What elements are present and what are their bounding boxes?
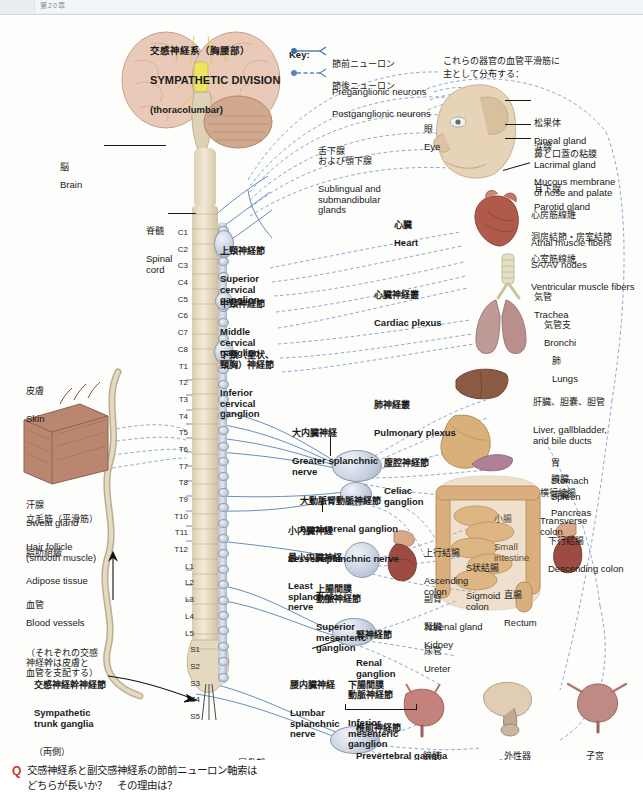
spinal-cord-label-en: Spinal cord	[146, 254, 172, 275]
inferior-cervical-ganglion-en: Inferior cervical ganglion	[220, 388, 274, 420]
pulmonary-plexus-label: 肺神経叢 Pulmonary plexus	[374, 382, 456, 456]
spinal-segment-s5: S5	[178, 712, 200, 721]
spinal-segment-t10: T10	[166, 512, 188, 521]
rectum-jp: 直腸	[504, 590, 537, 600]
vertebral-striations	[192, 206, 218, 666]
mucous-membrane-leader	[505, 138, 531, 139]
eye-en: Eye	[424, 141, 440, 152]
descending-colon-en: Descending colon	[548, 564, 624, 575]
cardiac-plexus-label: 心臓神経叢 Cardiac plexus	[374, 272, 442, 346]
sigmoid-colon-jp: S状結腸	[466, 563, 500, 573]
spinal-segment-t4: T4	[166, 412, 188, 421]
legend-item-postganglionic-jp: 節後ニューロン	[332, 81, 431, 91]
trunk-ganglion-bead	[218, 565, 229, 574]
cardiac-plexus-jp: 心臓神経叢	[374, 290, 442, 300]
bronchi-jp: 気管支	[544, 320, 571, 330]
spinal-segment-l2: L2	[172, 578, 194, 587]
ascending-colon-jp: 上行結腸	[424, 548, 468, 558]
aorticorenal-ganglion-label: 大動脈腎動脈神経節 Aorticorenal ganglion	[300, 478, 398, 552]
spinal-segment-l4: L4	[172, 612, 194, 621]
spinal-cord-label-jp: 脊髄	[146, 226, 172, 236]
ventricular-fibers-jp: 心室筋線維	[531, 254, 634, 264]
spinal-segment-c5: C5	[166, 295, 188, 304]
celiac-ganglion-jp: 腹腔神経節	[384, 458, 429, 468]
pulmonary-plexus-jp: 肺神経叢	[374, 400, 456, 410]
spinal-segment-s2: S2	[178, 662, 200, 671]
trunk-ganglion-bead	[218, 673, 229, 682]
trunk-ganglion-bead	[218, 519, 229, 528]
skin-title-en: Skin	[26, 414, 44, 425]
pineal-leader	[505, 100, 531, 101]
spinal-segment-t5: T5	[166, 428, 188, 437]
lumbar-splanchnic-nerve-jp: 腰内臓神経	[290, 680, 340, 690]
spinal-segment-t1: T1	[166, 362, 188, 371]
trunk-ganglion-bead	[218, 596, 229, 605]
cardiac-plexus-en: Cardiac plexus	[374, 318, 442, 329]
superior-mesenteric-ganglion-jp: 上腸間膜 動脈神経節	[316, 584, 366, 604]
spinal-segment-t12: T12	[166, 545, 188, 554]
spinal-segment-t6: T6	[166, 445, 188, 454]
spinal-segment-s1: S1	[178, 645, 200, 654]
lumbar-splanchnic-nerve-en: Lumbar splanchnic nerve	[290, 708, 340, 740]
trunk-ganglion-bead	[218, 611, 229, 620]
brainstem-segment	[194, 148, 216, 208]
blood-vessels-label: 血管 Blood vessels （それぞれの交感 神経幹は皮膚と 血管を支配す…	[26, 558, 98, 696]
spinal-segment-t2: T2	[166, 378, 188, 387]
heart-illustration	[470, 188, 526, 250]
organ-label-eye: 眼 Eye	[424, 100, 440, 154]
inferior-cervical-ganglion-jp: 下頸（星状、 頸胸）神経節	[220, 350, 274, 370]
skin-upward-arrow	[109, 552, 116, 600]
aorticorenal-ganglion-jp: 大動脈腎動脈神経節	[300, 496, 398, 506]
prevertebral-ganglia-jp: 椎前神経節	[356, 723, 447, 733]
skin-title-label: 皮膚 Skin	[26, 368, 44, 442]
brain-label-en: Brain	[60, 179, 82, 190]
legend-swatch-postganglionic	[290, 68, 334, 78]
sympathetic-trunk-ganglia-en: Sympathetic trunk ganglia	[34, 708, 106, 729]
organ-label-rectum: 直腸 Rectum	[504, 572, 537, 646]
lungs-jp: 肺	[552, 356, 561, 366]
renal-ganglion-jp: 腎神経節	[356, 630, 396, 640]
question-footer: Q 交感神経系と副交感神経系の節前ニューロン軸索は どちらが長いか？ その理由は…	[0, 760, 643, 812]
ureter-en: Ureter	[424, 663, 450, 674]
middle-cervical-ganglion-jp: 中頸神経節	[220, 299, 265, 309]
inferior-mesenteric-ganglion-jp: 下腸間膜 動脈神経節	[348, 680, 398, 700]
inferior-cervical-ganglion-label: 下頸（星状、 頸胸）神経節 Inferior cervical ganglion	[220, 332, 274, 438]
ureter-jp: 尿管	[424, 646, 442, 656]
spinal-segment-t3: T3	[166, 395, 188, 404]
legend-swatch-preganglionic	[290, 46, 334, 56]
blood-vessels-jp: 血管	[26, 600, 44, 610]
page-title: 交感神経系（胸腰部） SYMPATHETIC DIVISION (thoraco…	[150, 28, 281, 133]
descending-colon-jp: 下行結腸	[548, 536, 624, 546]
eye-jp: 眼	[424, 124, 433, 134]
organ-label-ureter: 尿管 Ureter	[424, 622, 450, 676]
brain-leader-line	[104, 145, 166, 146]
spinal-segment-t11: T11	[166, 528, 188, 537]
aorticorenal-ganglion-en: Aorticorenal ganglion	[300, 524, 398, 535]
page-title-sub: (thoracolumbar)	[150, 105, 281, 116]
trunk-ganglion-bead	[218, 442, 229, 451]
superior-cervical-ganglion-jp: 上頸神経節	[220, 246, 265, 256]
blood-vessels-note: （それぞれの交感 神経幹は皮膚と 血管を支配する）	[26, 648, 98, 678]
trunk-ganglion-bead	[218, 534, 229, 543]
organ-label-salivary-glands: 舌下腺 および顎下腺 Sublingual and submandibular …	[318, 128, 381, 234]
lumbar-splanchnic-nerve-label: 腰内臓神経 Lumbar splanchnic nerve	[290, 662, 340, 758]
adipose-tissue-jp: 脂肪組織	[26, 548, 88, 558]
lacrimal-leader	[505, 124, 531, 125]
blood-vessels-line: 血管 Blood vessels	[26, 576, 98, 630]
organ-label-descending-colon: 下行結腸 Descending colon	[548, 518, 624, 592]
hair-follicle-jp: 立毛筋（平滑筋）	[26, 514, 98, 524]
heart-en: Heart	[394, 237, 418, 248]
trunk-ganglion-bead	[218, 642, 229, 651]
liver-jp: 肝臓、胆嚢、胆管	[533, 397, 607, 407]
diagram-page: 第20章	[0, 0, 643, 812]
salivary-glands-en: Sublingual and submandibular glands	[318, 184, 381, 216]
rectum-en: Rectum	[504, 618, 537, 629]
liver-illustration	[452, 366, 510, 402]
aorticorenal-leader	[322, 498, 323, 512]
uterus-illustration	[560, 676, 632, 734]
question-text: 交感神経系と副交感神経系の節前ニューロン軸索は どちらが長いか？ その理由は？	[27, 763, 257, 793]
spinal-segment-s4: S4	[178, 695, 200, 704]
organ-label-heart: 心臓 Heart	[394, 196, 418, 250]
organ-label-lungs: 肺 Lungs	[552, 332, 578, 386]
trachea-illustration	[494, 254, 522, 302]
